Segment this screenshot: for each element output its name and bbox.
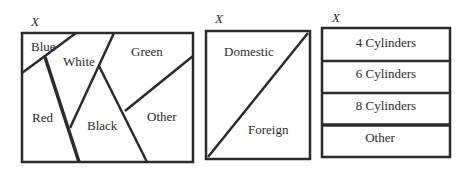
origin-partition-diagram: X Domestic Foreign	[206, 11, 310, 159]
region-label-white: White	[63, 54, 95, 69]
set-label: X	[331, 10, 341, 25]
region-label-4-cylinders: 4 Cylinders	[356, 35, 416, 50]
region-label-other: Other	[365, 130, 395, 145]
region-label-other: Other	[147, 109, 177, 124]
color-partition-diagram: X Blue White Green Red Black Other	[22, 14, 193, 162]
region-label-foreign: Foreign	[248, 122, 289, 137]
cylinders-partition-diagram: X 4 Cylinders 6 Cylinders 8 Cylinders Ot…	[322, 10, 450, 157]
region-label-red: Red	[32, 110, 53, 125]
divider-line	[99, 66, 147, 162]
set-label: X	[214, 11, 224, 26]
region-label-6-cylinders: 6 Cylinders	[356, 66, 416, 81]
region-label-8-cylinders: 8 Cylinders	[356, 98, 416, 113]
partition-diagrams: X Blue White Green Red Black Other X Dom…	[0, 0, 471, 171]
set-label: X	[30, 14, 40, 29]
region-label-domestic: Domestic	[224, 44, 274, 59]
divider-line	[125, 56, 193, 111]
region-label-blue: Blue	[31, 39, 56, 54]
region-label-black: Black	[87, 118, 118, 133]
region-label-green: Green	[131, 44, 163, 59]
